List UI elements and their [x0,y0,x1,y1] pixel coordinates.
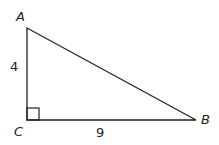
triangle-abc [27,28,196,120]
side-label-cb: 9 [96,125,104,140]
vertex-label-a: A [15,9,25,24]
vertex-label-b: B [201,112,210,127]
right-angle-marker [27,108,39,120]
side-label-ac: 4 [10,59,18,74]
vertex-label-c: C [14,124,24,139]
triangle-diagram: A C B 4 9 [0,0,219,145]
